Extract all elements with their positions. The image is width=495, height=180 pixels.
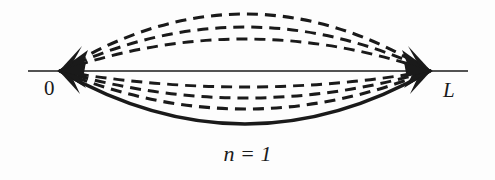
caption-n-equals-1: n = 1: [0, 143, 495, 165]
dashed-path-below-2: [60, 71, 430, 98]
dashed-path-below-3: [60, 71, 430, 109]
dashed-path-above-2: [60, 27, 430, 71]
dashed-path-above-1: [60, 39, 430, 71]
left-arrowhead: [57, 46, 88, 94]
endpoint-label-L: L: [443, 80, 455, 101]
dashed-path-above-3: [60, 14, 430, 71]
right-arrowhead: [402, 46, 433, 94]
endpoint-label-zero: 0: [44, 78, 55, 99]
